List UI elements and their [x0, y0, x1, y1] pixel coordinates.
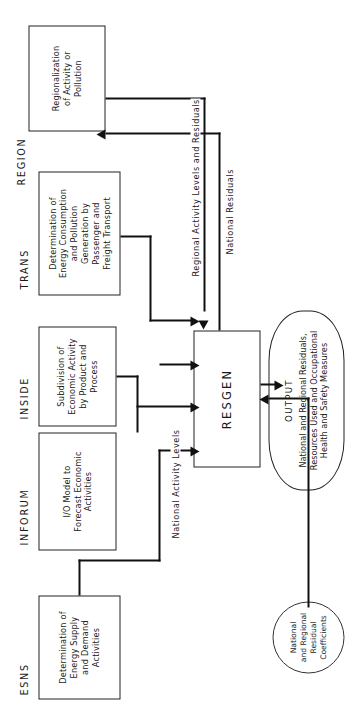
region-caption: REGION [15, 137, 26, 185]
flowchart-canvas: REGION Regionalization of Activity or Po… [0, 0, 356, 707]
node-resgen[interactable]: RESGEN [193, 330, 260, 467]
edge-label-national-activity: National Activity Levels [170, 428, 180, 539]
node-output-text: National and Regional Residuals, Resourc… [297, 330, 330, 469]
node-residual-coefficients-text: National and Regional Residual Coefficie… [288, 612, 328, 661]
node-inside-text: Subdivision of Economic Activity by Prod… [53, 335, 100, 417]
edge-regional-activity-h [203, 97, 205, 311]
node-inside[interactable]: Subdivision of Economic Activity by Prod… [38, 326, 116, 426]
node-esns-text: Determination of Energy Supply and Deman… [55, 608, 102, 687]
esns-caption: ESNS [18, 663, 29, 695]
edge-coeff-h [307, 397, 309, 607]
edge-esns-v1 [78, 559, 160, 561]
edge-esns-h2 [158, 449, 160, 561]
node-inforum[interactable]: I/O Model to Forecast Economic Activitie… [38, 432, 116, 550]
node-output-caption: OUTPUT [283, 379, 293, 422]
trans-caption: TRANS [18, 249, 29, 289]
edge-coeff-v [268, 397, 309, 399]
node-resgen-text: RESGEN [217, 365, 236, 432]
node-trans-text: Determination of Energy Consumption and … [45, 185, 114, 280]
node-trans[interactable]: Determination of Energy Consumption and … [38, 171, 120, 295]
inforum-caption: INFORUM [18, 488, 29, 545]
node-inforum-text: I/O Model to Forecast Economic Activitie… [59, 448, 95, 534]
node-region-text: Regionalization of Activity or Pollution [48, 42, 84, 114]
edge-inforum-resgen-v [136, 405, 195, 407]
edge-trans-seg-h [149, 235, 151, 321]
node-esns[interactable]: Determination of Energy Supply and Deman… [38, 595, 120, 699]
node-region[interactable]: Regionalization of Activity or Pollution [28, 25, 105, 131]
edge-trans-seg-v [120, 235, 151, 237]
edge-national-residuals-h [218, 132, 220, 330]
edge-inside-inforum-h [136, 375, 138, 432]
diagram-canvas-stage: REGION Regionalization of Activity or Po… [0, 0, 356, 707]
edge-inside-inforum-v [116, 375, 138, 377]
edge-esns-h1 [78, 559, 80, 595]
edge-label-regional-activity: Regional Activity Levels and Residuals [190, 98, 200, 277]
edge-regional-activity-arrowhead [198, 320, 208, 329]
node-residual-coefficients[interactable]: National and Regional Residual Coefficie… [272, 601, 344, 673]
edge-label-national-residuals: National Residuals [224, 168, 234, 255]
edge-esns-arrowhead [190, 446, 199, 456]
edge-trans-seg-v2 [149, 319, 195, 321]
edge-inforum-resgen-arrowhead [190, 402, 199, 412]
edge-resgen-output-arrowhead [274, 380, 283, 390]
edge-inside-resgen-arrowhead [190, 360, 199, 370]
edge-coeff-arrowhead [259, 394, 268, 404]
node-output[interactable]: OUTPUT National and Regional Residuals, … [268, 310, 344, 490]
edge-national-residuals-arrowhead [96, 129, 105, 139]
inside-caption: INSIDE [18, 376, 29, 419]
